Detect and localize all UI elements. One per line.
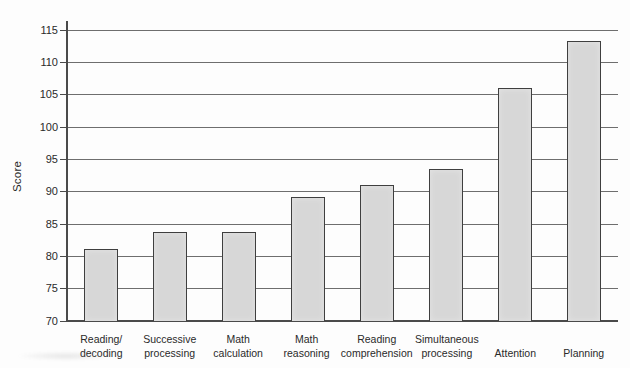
- x-tick-label-line: Reading: [357, 333, 396, 347]
- y-tick-label-110: 110: [0, 56, 58, 69]
- bar-slot: [343, 30, 412, 321]
- x-tick-label-line: Reading/: [80, 333, 122, 347]
- bar-slot: [480, 30, 549, 321]
- bar-slot: [136, 30, 205, 321]
- y-tick-label-70: 70: [0, 315, 58, 328]
- bar-slot: [411, 30, 480, 321]
- x-tick-label-line: reasoning: [284, 347, 330, 361]
- x-tick-label-line: Math: [295, 333, 318, 347]
- x-axis-labels-container: Reading/decodingSuccessiveprocessingMath…: [67, 330, 618, 360]
- x-tick-label-line: comprehension: [341, 347, 413, 361]
- bar-math-calculation: [222, 232, 256, 321]
- bars-container: [67, 30, 618, 321]
- bar-planning: [567, 41, 601, 321]
- x-tick-label-simultaneous-processing: Simultaneousprocessing: [413, 330, 481, 360]
- x-tick-label-successive-processing: Successiveprocessing: [135, 330, 203, 360]
- x-tick-label-math-calculation: Mathcalculation: [204, 330, 272, 360]
- bar-slot: [205, 30, 274, 321]
- bar-simultaneous-processing: [429, 169, 463, 321]
- y-tick-label-105: 105: [0, 88, 58, 101]
- x-tick-label-line: decoding: [80, 347, 123, 361]
- x-tick-label-reading-comprehension: Readingcomprehension: [341, 330, 413, 360]
- bar-math-reasoning: [291, 197, 325, 321]
- x-tick-label-line: Simultaneous: [415, 333, 479, 347]
- bar-reading-decoding: [84, 249, 118, 321]
- x-tick-label-line: Attention: [495, 347, 536, 361]
- bar-reading-comprehension: [360, 185, 394, 321]
- x-tick-label-math-reasoning: Mathreasoning: [272, 330, 340, 360]
- x-tick-label-attention: Attention: [481, 330, 549, 360]
- bar-slot: [67, 30, 136, 321]
- y-tick-label-90: 90: [0, 185, 58, 198]
- y-tick-label-115: 115: [0, 24, 58, 37]
- bar-chart-figure: Score 707580859095100105110115 Reading/d…: [0, 0, 630, 368]
- y-tick-label-100: 100: [0, 121, 58, 134]
- x-tick-label-line: calculation: [213, 347, 263, 361]
- bar-slot: [549, 30, 618, 321]
- y-tick-label-85: 85: [0, 218, 58, 231]
- x-tick-label-line: processing: [421, 347, 472, 361]
- x-tick-label-planning: Planning: [550, 330, 618, 360]
- x-tick-label-line: Successive: [143, 333, 196, 347]
- x-tick-label-line: processing: [144, 347, 195, 361]
- x-tick-label-line: Planning: [563, 347, 604, 361]
- bar-attention: [498, 88, 532, 321]
- y-tick-label-95: 95: [0, 153, 58, 166]
- bar-slot: [274, 30, 343, 321]
- y-tick-label-75: 75: [0, 282, 58, 295]
- bar-successive-processing: [153, 232, 187, 321]
- y-tick-label-80: 80: [0, 250, 58, 263]
- x-tick-label-reading-decoding: Reading/decoding: [67, 330, 135, 360]
- x-tick-label-line: Math: [226, 333, 249, 347]
